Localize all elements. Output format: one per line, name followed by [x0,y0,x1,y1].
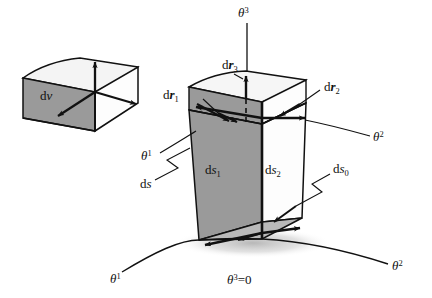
label-dv: dv [40,88,53,103]
block-left-lower-shaded-face [189,110,262,240]
ds-surface-block [189,71,306,245]
label-ds: ds [140,176,152,191]
figure-canvas: dv θ3 [0,0,432,298]
label-theta3-zero: θ3=0 [227,272,251,287]
